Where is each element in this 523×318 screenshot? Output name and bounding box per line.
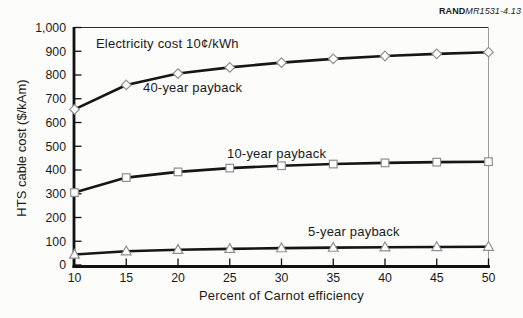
marker-square <box>71 189 79 197</box>
x-tick-label: 15 <box>119 271 133 285</box>
marker-diamond <box>328 54 338 64</box>
x-tick-label: 20 <box>171 271 185 285</box>
x-axis-title: Percent of Carnot efficiency <box>74 288 489 303</box>
x-tick-label: 50 <box>482 271 496 285</box>
y-tick-label: 600 <box>45 116 66 130</box>
x-tick-label: 10 <box>68 271 82 285</box>
y-tick-label: 300 <box>45 187 66 201</box>
marker-diamond <box>432 49 442 59</box>
marker-square <box>226 164 234 172</box>
x-tick-label: 35 <box>326 271 340 285</box>
x-tick-label: 30 <box>275 271 289 285</box>
marker-square <box>329 160 337 168</box>
y-tick-label: 700 <box>45 92 66 106</box>
marker-square <box>485 158 493 166</box>
series-label-10-year-payback: 10-year payback <box>227 146 326 161</box>
y-tick-label: 200 <box>45 211 66 225</box>
marker-diamond <box>121 80 131 90</box>
x-tick-label: 25 <box>223 271 237 285</box>
chart-figure: RANDMR1531-4.13 010020030040050060070080… <box>0 0 523 318</box>
marker-square <box>381 159 389 167</box>
marker-diamond <box>173 69 183 79</box>
marker-square <box>278 162 286 170</box>
marker-diamond <box>277 58 287 68</box>
marker-square <box>433 158 441 166</box>
chart-annotation: Electricity cost 10¢/kWh <box>96 36 239 51</box>
x-tick-label: 45 <box>430 271 444 285</box>
marker-diamond <box>70 105 80 115</box>
x-tick-label: 40 <box>378 271 392 285</box>
series-label-40-year-payback: 40-year payback <box>143 80 242 95</box>
y-tick-label: 100 <box>45 235 66 249</box>
y-tick-label: 0 <box>59 258 66 272</box>
marker-square <box>174 168 182 176</box>
y-tick-label: 800 <box>45 68 66 82</box>
marker-diamond <box>484 47 494 57</box>
y-axis-title: HTS cable cost ($/kAm) <box>14 41 30 255</box>
y-tick-label: 900 <box>45 45 66 59</box>
marker-diamond <box>380 51 390 61</box>
series-label-5-year-payback: 5-year payback <box>308 224 400 239</box>
marker-diamond <box>225 63 235 73</box>
y-tick-label: 500 <box>45 140 66 154</box>
marker-square <box>122 174 130 182</box>
y-tick-label: 400 <box>45 163 66 177</box>
y-tick-label: 1,000 <box>35 21 66 35</box>
